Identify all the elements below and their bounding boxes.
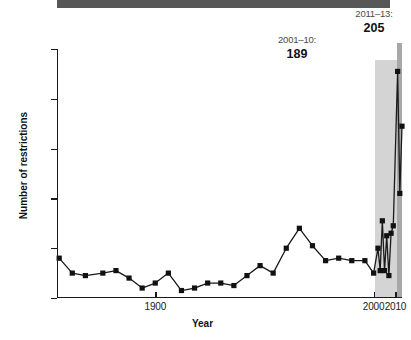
y-axis-tick xyxy=(51,198,57,199)
data-point-marker xyxy=(375,246,380,251)
data-point-marker xyxy=(336,256,341,261)
series-markers xyxy=(57,69,405,293)
data-point-marker xyxy=(399,124,404,129)
data-point-marker xyxy=(231,283,236,288)
data-point-marker xyxy=(310,243,315,248)
annotation-range-label: 2011–13: xyxy=(328,8,411,20)
data-point-marker xyxy=(113,268,118,273)
x-axis-tick xyxy=(374,292,375,298)
data-point-marker xyxy=(371,271,376,276)
x-axis-tick xyxy=(395,292,396,298)
data-point-marker xyxy=(218,280,223,285)
x-axis-tick-label: 1900 xyxy=(125,301,185,312)
data-point-marker xyxy=(349,258,354,263)
series-polyline xyxy=(59,71,402,290)
data-point-marker xyxy=(192,285,197,290)
data-point-marker xyxy=(271,271,276,276)
data-point-marker xyxy=(100,271,105,276)
plot-area xyxy=(57,42,402,298)
x-axis-line xyxy=(57,297,402,298)
data-point-marker xyxy=(153,280,158,285)
x-axis-title: Year xyxy=(0,318,405,329)
y-axis-tick xyxy=(51,248,57,249)
data-point-marker xyxy=(382,268,387,273)
data-point-marker xyxy=(244,273,249,278)
data-point-marker xyxy=(284,246,289,251)
data-point-marker xyxy=(391,223,396,228)
data-point-marker xyxy=(395,69,400,74)
annotation-total-value: 189 xyxy=(236,46,358,62)
data-point-marker xyxy=(257,263,262,268)
data-point-marker xyxy=(388,231,393,236)
top-header-bar xyxy=(57,0,390,8)
data-point-marker xyxy=(126,275,131,280)
y-axis-tick xyxy=(51,149,57,150)
annotation-band-2011-2013: 2011–13: 205 xyxy=(328,8,411,36)
y-axis-tick xyxy=(51,49,57,50)
data-point-marker xyxy=(397,191,402,196)
data-point-marker xyxy=(205,280,210,285)
y-axis-title: Number of restrictions xyxy=(18,71,29,261)
data-point-marker xyxy=(297,226,302,231)
data-point-marker xyxy=(386,273,391,278)
data-series-line xyxy=(57,42,402,298)
data-point-marker xyxy=(380,218,385,223)
data-point-marker xyxy=(70,271,75,276)
data-point-marker xyxy=(179,288,184,293)
annotation-total-value: 205 xyxy=(328,20,411,36)
annotation-band-2001-2010: 2001–10: 189 xyxy=(236,34,358,62)
data-point-marker xyxy=(83,273,88,278)
x-axis-tick xyxy=(155,292,156,298)
data-point-marker xyxy=(140,285,145,290)
y-axis-tick xyxy=(51,298,57,299)
data-point-marker xyxy=(323,258,328,263)
x-axis-tick-label: 2010 xyxy=(365,301,411,312)
y-axis-line xyxy=(57,49,58,298)
data-point-marker xyxy=(166,271,171,276)
y-axis-tick xyxy=(51,99,57,100)
data-point-marker xyxy=(362,258,367,263)
